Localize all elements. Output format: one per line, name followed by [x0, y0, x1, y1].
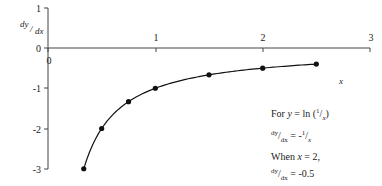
y-tick-label: 0	[36, 43, 41, 54]
y-tick-label: -1	[33, 83, 41, 94]
annotation-line-1: For y = ln (1/x)	[271, 104, 329, 126]
data-point	[206, 72, 211, 77]
data-point	[99, 126, 104, 131]
annotation-line-3: When x = 2,	[271, 149, 329, 164]
y-axis-label-numerator: dy	[20, 19, 29, 29]
x-tick-label: 3	[369, 32, 374, 43]
data-point	[260, 66, 265, 71]
y-tick-label: -3	[33, 164, 41, 175]
x-ticks	[48, 48, 370, 52]
y-ticks	[44, 8, 48, 169]
annotation-line-4: dy/dx = -0.5	[271, 164, 329, 186]
data-point	[314, 62, 319, 67]
x-tick-label: 1	[154, 32, 159, 43]
data-point	[126, 99, 131, 104]
y-tick-label: 1	[36, 3, 41, 14]
y-axis-label-denominator: dx	[35, 26, 44, 36]
y-tick-label: -2	[33, 124, 41, 135]
y-axis-label-slash: /	[29, 24, 34, 34]
data-point	[153, 86, 158, 91]
x-tick-label: 2	[261, 32, 266, 43]
annotation-line-2: dy/dx = -1/x	[271, 126, 329, 148]
data-point	[81, 166, 86, 171]
annotation-box: For y = ln (1/x) dy/dx = -1/x When x = 2…	[271, 104, 329, 186]
x-tick-label: 0	[47, 55, 52, 66]
x-axis-label: x	[338, 76, 343, 86]
